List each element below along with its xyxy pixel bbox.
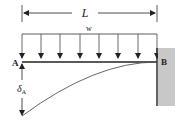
deflection-curve <box>22 62 157 116</box>
deflection-label: δA <box>17 83 27 95</box>
distributed-load <box>22 34 157 58</box>
length-dimension: L <box>22 5 157 22</box>
point-a-label: A <box>12 58 19 68</box>
cantilever-diagram: L w δA A B <box>0 0 184 129</box>
deflection-dimension: δA <box>17 64 27 115</box>
load-label: w <box>86 24 92 33</box>
point-b-label: B <box>161 57 167 67</box>
length-label: L <box>81 6 89 20</box>
